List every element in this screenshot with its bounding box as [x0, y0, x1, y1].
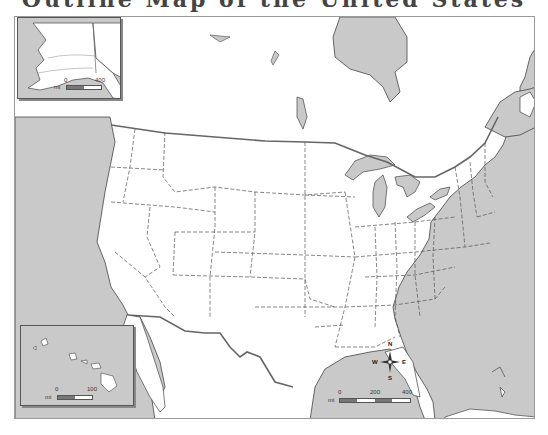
- hawaii-scale-bar: [57, 395, 93, 400]
- compass-rose: [378, 347, 402, 377]
- hawaii-inset: 0 100 mi: [20, 325, 134, 406]
- alaska-scale-zero: 0: [64, 77, 67, 83]
- main-scale-bar: [339, 398, 411, 403]
- main-scale-unit: mi: [328, 397, 334, 403]
- compass-icon: [378, 347, 402, 377]
- compass-w: W: [372, 359, 378, 365]
- main-scale-mid: 200: [370, 389, 380, 395]
- compass-n: N: [388, 341, 392, 347]
- map-frame: 0 400 mi 0 100 mi N S E W 0 200 400 m: [14, 16, 535, 419]
- hawaii-scale-zero: 0: [55, 386, 58, 392]
- map-title: Outline Map of the United States: [0, 0, 548, 4]
- hawaii-scale-unit: mi: [45, 394, 51, 400]
- main-scale-max: 400: [402, 389, 412, 395]
- compass-s: S: [388, 375, 392, 381]
- alaska-scale-bar: [66, 85, 102, 90]
- main-scale-zero: 0: [338, 389, 341, 395]
- compass-e: E: [402, 359, 406, 365]
- alaska-scale-unit: mi: [54, 84, 60, 90]
- hawaii-scale-max: 100: [87, 386, 97, 392]
- alaska-scale-max: 400: [95, 77, 105, 83]
- alaska-inset: 0 400 mi: [17, 17, 121, 99]
